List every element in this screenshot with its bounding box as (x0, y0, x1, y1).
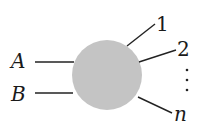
label-1: 1 (156, 12, 169, 36)
interaction-blob (72, 40, 142, 110)
outgoing-line-1 (127, 24, 155, 46)
outgoing-line-2 (139, 50, 176, 62)
outgoing-line-n (138, 97, 172, 113)
label-n: n (174, 102, 187, 126)
label-a: A (9, 49, 25, 73)
label-2: 2 (177, 37, 190, 61)
label-b: B (10, 82, 26, 106)
scattering-diagram: A B 1 2 n (0, 0, 201, 129)
ellipsis-vertical (186, 69, 189, 92)
